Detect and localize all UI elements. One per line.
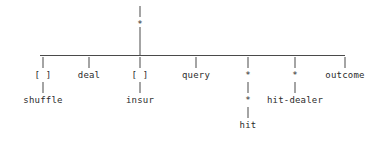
branch-tick-1 xyxy=(43,57,44,68)
node-label-6: * xyxy=(292,70,298,80)
root-stub-line xyxy=(140,6,141,17)
node-label-1: [ ] xyxy=(35,70,52,80)
root-drop-line xyxy=(140,27,141,55)
leaf-label-insur: insur xyxy=(126,95,154,105)
node-label-5-child: * xyxy=(245,95,251,105)
branch-tick-4 xyxy=(196,57,197,68)
node-label-5: * xyxy=(245,70,251,80)
branch-tick-5 xyxy=(248,57,249,68)
child-link-1 xyxy=(43,82,44,93)
leaf-label-hit-dealer: hit-dealer xyxy=(267,95,323,105)
branch-tick-6 xyxy=(295,57,296,68)
child-link-3 xyxy=(140,82,141,93)
tree-diagram-canvas: * [ ] shuffle deal [ ] insur query * * h… xyxy=(0,0,383,146)
leaf-label-hit: hit xyxy=(240,120,257,130)
node-label-3: [ ] xyxy=(132,70,149,80)
branch-tick-2 xyxy=(89,57,90,68)
node-label-deal: deal xyxy=(78,70,100,80)
child-link-5-deep xyxy=(248,107,249,118)
branch-tick-7 xyxy=(345,57,346,68)
leaf-label-shuffle: shuffle xyxy=(23,95,62,105)
child-link-6 xyxy=(295,82,296,93)
branch-bar xyxy=(40,55,345,56)
node-label-query: query xyxy=(182,70,210,80)
node-label-outcome: outcome xyxy=(325,70,364,80)
child-link-5 xyxy=(248,82,249,93)
branch-tick-3 xyxy=(140,57,141,68)
